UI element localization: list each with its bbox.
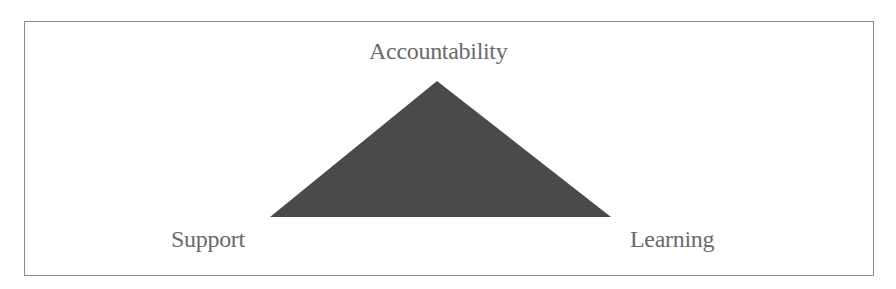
label-support: Support <box>171 226 245 253</box>
label-learning: Learning <box>630 226 714 253</box>
label-accountability: Accountability <box>369 38 507 65</box>
